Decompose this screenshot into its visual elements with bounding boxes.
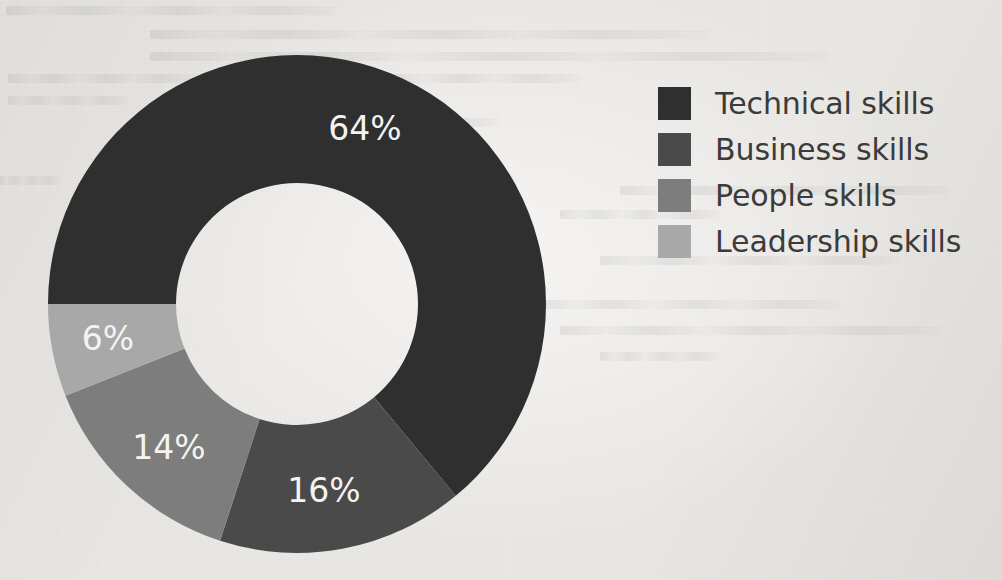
legend-item-technical-skills[interactable]: Technical skills — [658, 80, 988, 126]
donut-chart: 64% 16% 14% 6% — [0, 0, 620, 580]
legend-swatch-icon — [658, 87, 691, 120]
legend-item-label: Technical skills — [715, 86, 934, 121]
legend-swatch-icon — [658, 179, 691, 212]
legend-swatch-icon — [658, 133, 691, 166]
slice-label-business-skills: 16% — [287, 471, 360, 510]
legend-item-business-skills[interactable]: Business skills — [658, 126, 988, 172]
legend-item-label: Leadership skills — [715, 224, 961, 259]
legend-item-people-skills[interactable]: People skills — [658, 172, 988, 218]
slice-label-people-skills: 14% — [132, 428, 205, 467]
slice-label-leadership-skills: 6% — [82, 319, 134, 358]
slice-label-technical-skills: 64% — [328, 109, 401, 148]
chart-legend: Technical skills Business skills People … — [658, 80, 988, 264]
legend-swatch-icon — [658, 225, 691, 258]
donut-chart-svg: 64% 16% 14% 6% — [0, 0, 620, 580]
legend-item-leadership-skills[interactable]: Leadership skills — [658, 218, 988, 264]
scanned-page: 64% 16% 14% 6% Technical skills Business… — [0, 0, 1002, 580]
legend-item-label: People skills — [715, 178, 897, 213]
legend-item-label: Business skills — [715, 132, 929, 167]
